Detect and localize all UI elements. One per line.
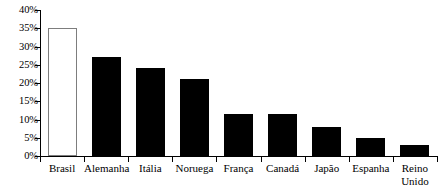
bar-chart: 0%5%10%15%20%25%30%35%40% BrasilAlemanha… <box>0 0 443 190</box>
x-label-frança: França <box>216 162 260 175</box>
bar-espanha <box>356 138 385 156</box>
bar-reino-unido <box>400 145 429 156</box>
x-label-brasil: Brasil <box>40 162 84 175</box>
y-tick-label: 15% <box>19 96 38 107</box>
bar-itália <box>136 68 165 156</box>
bar-canadá <box>268 114 297 156</box>
y-tick-label: 30% <box>19 42 38 53</box>
y-tick-label: 0% <box>24 151 38 162</box>
x-label-espanha: Espanha <box>349 162 393 175</box>
y-tick-label: 20% <box>19 78 38 89</box>
y-tick-label: 35% <box>19 23 38 34</box>
bars-group <box>40 10 437 156</box>
x-label-canadá: Canadá <box>261 162 305 175</box>
bar-alemanha <box>92 57 121 156</box>
x-label-japão: Japão <box>305 162 349 175</box>
y-tick-label: 40% <box>19 5 38 16</box>
bar-noruega <box>180 79 209 156</box>
y-tick-label: 25% <box>19 60 38 71</box>
bar-brasil <box>48 28 77 156</box>
x-axis-line <box>40 156 438 157</box>
x-label-itália: Itália <box>128 162 172 175</box>
bar-japão <box>312 127 341 156</box>
bar-frança <box>224 114 253 156</box>
x-tick <box>437 157 438 162</box>
y-tick-label: 10% <box>19 115 38 126</box>
x-label-noruega: Noruega <box>172 162 216 175</box>
x-label-reino-unido: Reino Unido <box>393 162 437 187</box>
x-label-alemanha: Alemanha <box>84 162 128 175</box>
y-tick-label: 5% <box>24 133 38 144</box>
